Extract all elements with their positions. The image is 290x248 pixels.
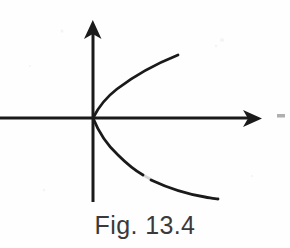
figure-page: Fig. 13.4: [0, 0, 290, 248]
edge-dash-artifact-icon: [277, 114, 285, 118]
figure-caption: Fig. 13.4: [0, 210, 290, 240]
